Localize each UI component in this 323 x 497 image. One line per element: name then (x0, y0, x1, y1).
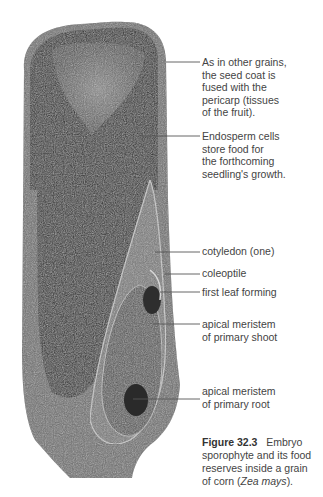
label-line: fused with the (202, 81, 287, 94)
label-line: of primary shoot (202, 331, 277, 344)
label-line: As in other grains, (202, 56, 287, 69)
figure-number: Figure 32.3 (202, 436, 257, 448)
label-line: of the fruit). (202, 106, 287, 119)
species-name: Zea mays (241, 475, 287, 487)
caption-text: ). (287, 475, 293, 487)
shoot-apex (143, 286, 161, 314)
label-cotyledon: cotyledon (one) (202, 245, 274, 258)
label-line: pericarp (tissues (202, 94, 287, 107)
label-line: apical meristem (202, 318, 277, 331)
caption-text: sporophyte and its food (202, 449, 311, 462)
root-apex (124, 384, 148, 416)
corn-grain-section-image (0, 0, 200, 497)
label-line: of primary root (202, 398, 276, 411)
caption-text: reserves inside a grain (202, 462, 311, 475)
label-coleoptile: coleoptile (202, 267, 246, 280)
label-endosperm: Endosperm cells store food for the forth… (202, 130, 286, 180)
label-line: coleoptile (202, 267, 246, 280)
label-first-leaf: first leaf forming (202, 286, 277, 299)
label-line: cotyledon (one) (202, 245, 274, 258)
label-line: seedling's growth. (202, 168, 286, 181)
label-line: first leaf forming (202, 286, 277, 299)
label-line: the seed coat is (202, 69, 287, 82)
label-seed-coat: As in other grains, the seed coat is fus… (202, 56, 287, 119)
label-line: store food for (202, 143, 286, 156)
label-line: apical meristem (202, 385, 276, 398)
label-root-meristem: apical meristem of primary root (202, 385, 276, 410)
label-shoot-meristem: apical meristem of primary shoot (202, 318, 277, 343)
label-line: the forthcoming (202, 155, 286, 168)
caption-text: Embryo (266, 436, 302, 448)
caption-text: of corn ( (202, 475, 241, 487)
label-line: Endosperm cells (202, 130, 286, 143)
figure-caption: Figure 32.3 Embryo sporophyte and its fo… (202, 436, 311, 488)
